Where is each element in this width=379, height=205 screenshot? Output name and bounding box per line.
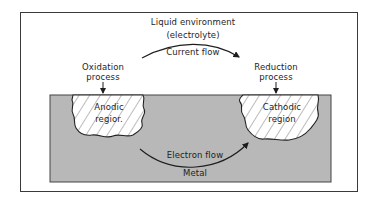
current-flow-label: Current flow — [150, 47, 236, 57]
cathodic-region-label-line1: Cathodic — [252, 102, 312, 112]
cathodic-region-label-line2: region — [252, 114, 312, 124]
anodic-region-label-line1: Anodic — [84, 102, 134, 112]
metal-label: Metal — [170, 168, 220, 178]
electron-flow-label: Electron flow — [155, 150, 235, 160]
reduction-label-line2: process — [246, 72, 306, 82]
environment-label-line2: (electrolyte) — [143, 30, 243, 40]
oxidation-label-line1: Oxidation — [73, 62, 133, 72]
environment-label-line1: Liquid environment — [143, 17, 243, 27]
reduction-label-line1: Reduction — [246, 62, 306, 72]
oxidation-label-line2: process — [73, 72, 133, 82]
anodic-region-label-line2: regior. — [84, 114, 134, 124]
